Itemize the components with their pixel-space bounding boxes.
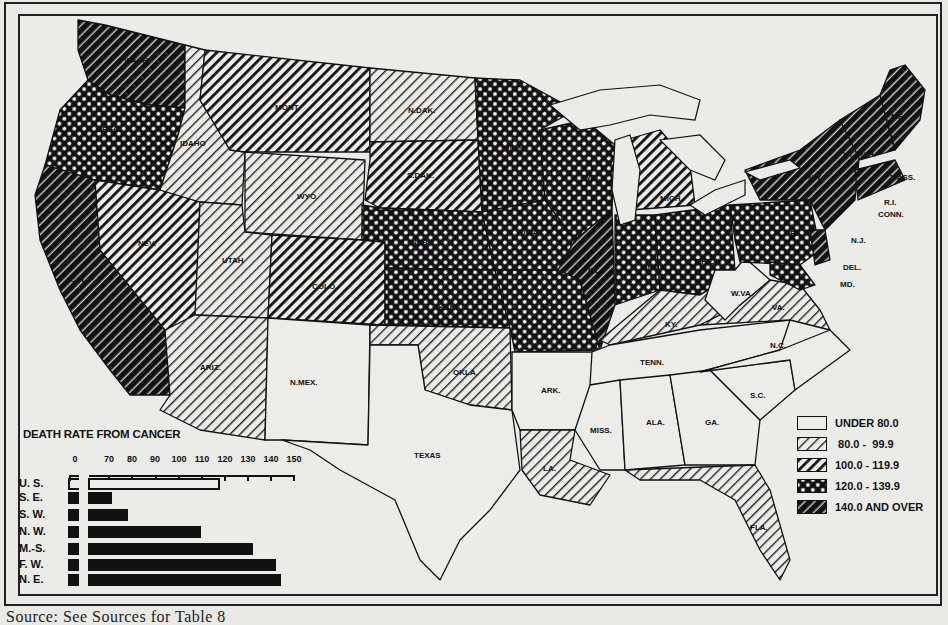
legend-label: 100.0 - 119.9 (835, 459, 899, 471)
bar-label: F. W. (19, 558, 59, 570)
death-rate-bar-chart: DEATH RATE FROM CANCER 0 70 80 90 100 11… (15, 428, 290, 588)
legend-swatch-blank (797, 416, 827, 430)
label-conn: CONN. (878, 210, 904, 219)
state-ariz (160, 315, 268, 440)
label-ark: ARK. (541, 386, 561, 395)
label-sdak: S.DAK. (407, 171, 434, 180)
label-nh: N.H. (860, 150, 876, 159)
label-ky: KY. (665, 320, 677, 329)
label-ala: ALA. (646, 418, 665, 427)
tick-label: 130 (240, 454, 255, 464)
label-wyo: WYO. (297, 192, 318, 201)
label-idaho: IDAHO (180, 139, 206, 148)
state-kans (385, 268, 510, 328)
bar-label: S. E. (19, 491, 59, 503)
legend-item-140-over: 140.0 AND OVER (797, 496, 942, 517)
label-mass: MASS. (890, 173, 915, 182)
label-ndak: N.DAK. (408, 106, 436, 115)
tick-label: 110 (195, 454, 210, 464)
state-ind (615, 215, 660, 305)
label-nev: NEV. (138, 239, 156, 248)
bar-label: N. E. (19, 573, 59, 585)
label-kans: KANS. (438, 303, 463, 312)
label-ri: R.I. (884, 198, 896, 207)
label-fla: FLA. (750, 523, 768, 532)
map-legend: UNDER 80.0 80.0 - 99.9 100.0 - 119.9 120… (797, 412, 942, 517)
label-pa: PA. (790, 229, 803, 238)
legend-item-100-119: 100.0 - 119.9 (797, 454, 942, 475)
bar-nw (88, 526, 201, 538)
label-calif: CALIF. (70, 275, 95, 284)
bar-row-se: S. E. (15, 492, 295, 504)
label-ga: GA. (705, 418, 719, 427)
label-texas: TEXAS (414, 451, 441, 460)
bar-stub (68, 478, 79, 490)
state-pa (730, 200, 820, 265)
label-ill: ILL. (588, 266, 602, 275)
legend-swatch-medium-hatch (797, 458, 827, 472)
label-ohio: OHIO (695, 257, 715, 266)
label-sc: S.C. (750, 391, 766, 400)
legend-label: 80.0 - 99.9 (835, 438, 894, 450)
tick-label: 80 (127, 454, 137, 464)
tick-label: 70 (104, 454, 114, 464)
legend-item-80-99: 80.0 - 99.9 (797, 433, 942, 454)
label-oreg: OREG. (96, 125, 122, 134)
label-mich: MICH. (660, 194, 683, 203)
bar-fw (88, 559, 276, 571)
label-md: MD. (840, 280, 855, 289)
label-wash: WASH. (124, 56, 150, 65)
label-colo: COLO. (312, 282, 337, 291)
bar-row-fw: F. W. (15, 559, 295, 571)
bar-se (88, 492, 112, 504)
tick-label: 120 (217, 454, 232, 464)
state-ndak (370, 68, 478, 142)
bar-stub (68, 574, 79, 586)
bar-ms (88, 543, 253, 555)
label-ny: N.Y. (808, 173, 823, 182)
label-la: LA. (543, 464, 556, 473)
bar-stub (68, 526, 79, 538)
bar-label: N. W. (19, 525, 59, 537)
label-nmex: N.MEX. (290, 378, 318, 387)
tick-label: 90 (150, 454, 160, 464)
bar-stub (68, 543, 79, 555)
bar-row-sw: S. W. (15, 509, 295, 521)
tick-label: 0 (72, 454, 77, 464)
bar-us (88, 478, 220, 490)
label-okla: OKLA. (453, 368, 478, 377)
label-del: DEL. (843, 263, 861, 272)
legend-swatch-light-hatch (797, 437, 827, 451)
label-tenn: TENN. (640, 358, 664, 367)
legend-item-under-80: UNDER 80.0 (797, 412, 942, 433)
bar-stub (68, 509, 79, 521)
chart-x-axis: 0 70 80 90 100 110 120 130 140 150 (15, 454, 245, 472)
label-iowa: IOWA (517, 228, 539, 237)
bar-label: U. S. (19, 477, 59, 489)
label-nebr: NEBR. (411, 238, 436, 247)
label-nj: N.J. (851, 236, 866, 245)
bar-stub (68, 492, 79, 504)
bar-sw (88, 509, 128, 521)
tick-label: 140 (263, 454, 278, 464)
label-wis: WIS. (583, 173, 600, 182)
label-utah: UTAH (222, 256, 244, 265)
bar-ne (88, 574, 281, 586)
label-minn: MINN. (503, 144, 526, 153)
source-note: Source: See Sources for Table 8 (6, 608, 226, 625)
bar-row-us: U. S. (15, 478, 295, 490)
bar-row-ms: M.-S. (15, 543, 295, 555)
label-ariz: ARIZ. (200, 363, 221, 372)
label-me: ME. (891, 112, 905, 121)
legend-item-120-139: 120.0 - 139.9 (797, 475, 942, 496)
bar-row-nw: N. W. (15, 526, 295, 538)
state-mont (200, 50, 370, 152)
bar-row-ne: N. E. (15, 574, 295, 586)
legend-label: 140.0 AND OVER (835, 501, 923, 513)
bar-label: S. W. (19, 508, 59, 520)
label-vt: VT. (843, 150, 855, 159)
legend-swatch-crosshatch (797, 479, 827, 493)
chart-title: DEATH RATE FROM CANCER (23, 428, 180, 440)
tick-label: 100 (171, 454, 186, 464)
label-wva: W.VA. (731, 289, 753, 298)
